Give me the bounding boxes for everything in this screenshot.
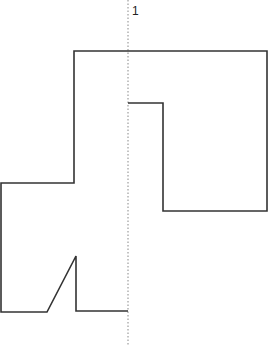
axis-label: 1 [132,4,139,18]
symmetry-diagram [0,0,270,347]
shape-outline [1,51,267,312]
